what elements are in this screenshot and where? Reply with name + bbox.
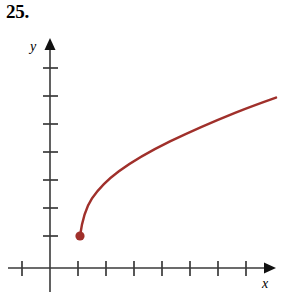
- x-axis-arrowhead: [264, 263, 276, 274]
- x-axis-label: x: [261, 276, 269, 291]
- function-curve: [80, 98, 276, 236]
- figure-page: 25.: [0, 0, 281, 292]
- curve-endpoint-dot: [75, 231, 84, 240]
- y-axis-arrowhead: [45, 38, 56, 50]
- y-axis-label: y: [28, 39, 37, 54]
- coordinate-plot: y x: [0, 0, 281, 292]
